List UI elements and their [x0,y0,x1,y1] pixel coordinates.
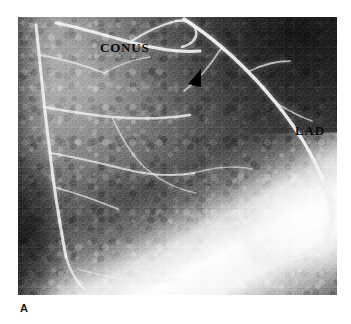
coronary-angiogram-image: CONUS LAD [18,17,337,295]
radiograph-tone-stack [18,17,337,295]
radiograph-grain-fine [18,17,337,295]
lad-label: LAD [295,124,325,137]
conus-label: CONUS [100,41,150,54]
arrowhead-icon [187,68,203,88]
panel-letter-label: A [20,303,28,314]
figure-panel: CONUS LAD A [0,0,351,324]
